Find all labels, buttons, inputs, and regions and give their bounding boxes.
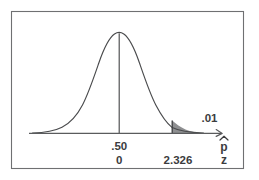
normal-curve-figure: .01 .50 0 2.326 p z (0, 0, 259, 180)
normal-curve-svg: .01 .50 0 2.326 p z (0, 0, 259, 180)
axis-label-z: z (221, 153, 227, 167)
figure-frame (12, 12, 244, 169)
center-proportion-label: .50 (111, 140, 127, 152)
axis-label-p-hat: p (220, 140, 227, 154)
critical-value-label: 2.326 (164, 154, 193, 166)
center-z-label: 0 (116, 154, 122, 166)
tail-area-label: .01 (202, 112, 219, 124)
